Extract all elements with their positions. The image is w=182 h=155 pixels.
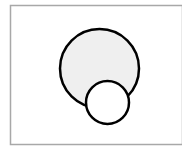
small-circle bbox=[86, 81, 129, 124]
diagram-canvas bbox=[0, 0, 182, 155]
